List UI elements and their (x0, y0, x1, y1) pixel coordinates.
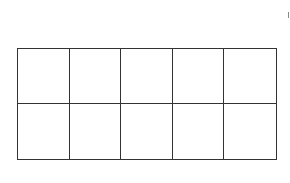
grid-cell-r2-c4 (173, 104, 225, 159)
grid-cell-r1-c4 (173, 49, 225, 104)
grid-cell-r1-c5 (224, 49, 276, 104)
grid-cell-r2-c2 (70, 104, 122, 159)
grid-cell-r1-c1 (18, 49, 70, 104)
edge-mark (288, 12, 289, 18)
ten-frame-grid (17, 48, 277, 160)
grid-cell-r2-c1 (18, 104, 70, 159)
grid-cell-r1-c3 (121, 49, 173, 104)
grid-cell-r1-c2 (70, 49, 122, 104)
grid-cell-r2-c5 (224, 104, 276, 159)
grid-cell-r2-c3 (121, 104, 173, 159)
